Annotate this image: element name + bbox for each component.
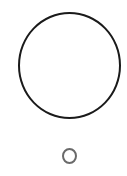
small-circle-icon — [62, 148, 77, 164]
diagram-canvas — [0, 0, 127, 176]
large-circle-icon — [18, 12, 121, 119]
